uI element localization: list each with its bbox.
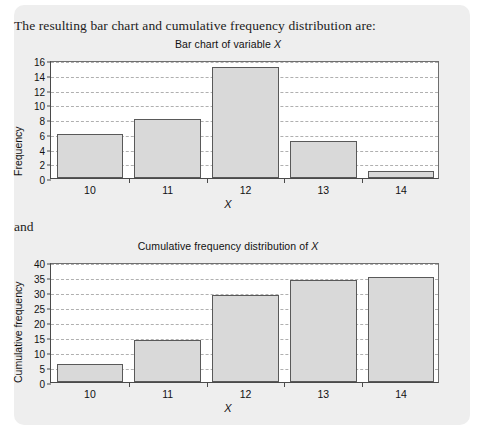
y-axis-tick-mark [47, 384, 51, 385]
page-root: The resulting bar chart and cumulative f… [0, 0, 484, 447]
y-axis-tick-mark [47, 294, 51, 295]
x-axis-tick-label: 11 [162, 184, 173, 196]
gridline [51, 264, 438, 265]
x-axis-tick-label: 11 [162, 388, 173, 400]
x-axis-title: X [0, 198, 456, 210]
x-axis-tick-label: 12 [240, 388, 252, 400]
x-axis-tick-mark [362, 382, 363, 387]
chart-bar [368, 277, 435, 382]
plot-area: 02468101214161011121314 [50, 61, 439, 179]
y-axis-tick-mark [47, 264, 51, 265]
y-axis-tick-label: 5 [39, 364, 45, 375]
y-axis-tick-label: 30 [34, 289, 45, 300]
y-axis-tick-label: 8 [39, 116, 45, 127]
y-axis-tick-mark [47, 150, 51, 151]
y-axis-tick-label: 40 [34, 259, 45, 270]
plot-area-wrapper: 05101520253035401011121314 [50, 263, 439, 383]
chart-bar [134, 340, 201, 382]
cumulative-chart-figure: Cumulative frequency distribution of X C… [0, 240, 456, 420]
plot-area-wrapper: 02468101214161011121314 [50, 61, 439, 179]
chart-title-text: Cumulative frequency distribution of [138, 240, 312, 252]
y-axis-tick-label: 20 [34, 319, 45, 330]
y-axis-title: Frequency [12, 126, 24, 176]
chart-title: Cumulative frequency distribution of X [0, 240, 456, 252]
x-axis-tick-label: 10 [84, 184, 96, 196]
y-axis-tick-label: 15 [34, 334, 45, 345]
x-axis-title: X [0, 402, 456, 414]
y-axis-tick-label: 6 [39, 130, 45, 141]
x-axis-tick-mark [284, 178, 285, 183]
y-axis-tick-mark [47, 354, 51, 355]
y-axis-tick-mark [47, 135, 51, 136]
x-axis-tick-mark [207, 178, 208, 183]
x-axis-tick-label: 12 [240, 184, 252, 196]
x-axis-tick-mark [284, 382, 285, 387]
chart-bar [134, 119, 201, 178]
chart-bar [368, 171, 435, 178]
chart-title: Bar chart of variable X [0, 38, 456, 50]
x-axis-tick-label: 13 [317, 388, 329, 400]
y-axis-tick-mark [47, 76, 51, 77]
x-axis-tick-mark [362, 178, 363, 183]
chart-bar [290, 280, 357, 382]
y-axis-tick-label: 10 [34, 349, 45, 360]
y-axis-title: Cumulative frequency [12, 281, 24, 383]
y-axis-tick-label: 0 [39, 175, 45, 186]
chart-bar [212, 295, 279, 382]
y-axis-tick-label: 14 [34, 71, 45, 82]
y-axis-tick-label: 10 [34, 101, 45, 112]
x-axis-tick-mark [129, 382, 130, 387]
y-axis-tick-mark [47, 62, 51, 63]
chart-bar [57, 134, 124, 178]
y-axis-tick-mark [47, 91, 51, 92]
y-axis-tick-mark [47, 180, 51, 181]
y-axis-tick-mark [47, 106, 51, 107]
chart-bar [290, 141, 357, 178]
y-axis-tick-label: 16 [34, 57, 45, 68]
x-axis-tick-mark [207, 382, 208, 387]
x-axis-tick-mark [129, 178, 130, 183]
y-axis-tick-mark [47, 309, 51, 310]
chart-title-variable: X [274, 38, 281, 50]
y-axis-tick-mark [47, 121, 51, 122]
chart-bar [57, 364, 124, 382]
y-axis-tick-label: 2 [39, 160, 45, 171]
x-axis-tick-label: 14 [395, 388, 407, 400]
gridline [51, 62, 438, 63]
chart-title-text: Bar chart of variable [175, 38, 274, 50]
y-axis-tick-mark [47, 279, 51, 280]
connector-text: and [14, 219, 34, 235]
chart-title-variable: X [311, 240, 318, 252]
x-axis-tick-label: 14 [395, 184, 407, 196]
y-axis-tick-mark [47, 369, 51, 370]
y-axis-tick-label: 0 [39, 379, 45, 390]
x-axis-tick-label: 13 [317, 184, 329, 196]
bar-chart-figure: Bar chart of variable X Frequency 024681… [0, 38, 456, 216]
y-axis-tick-mark [47, 324, 51, 325]
y-axis-tick-label: 12 [34, 86, 45, 97]
chart-bar [212, 67, 279, 178]
plot-area: 05101520253035401011121314 [50, 263, 439, 383]
y-axis-tick-label: 25 [34, 304, 45, 315]
x-axis-tick-label: 10 [84, 388, 96, 400]
y-axis-tick-label: 35 [34, 274, 45, 285]
y-axis-tick-mark [47, 165, 51, 166]
y-axis-tick-label: 4 [39, 145, 45, 156]
y-axis-tick-mark [47, 339, 51, 340]
intro-paragraph: The resulting bar chart and cumulative f… [14, 18, 376, 34]
